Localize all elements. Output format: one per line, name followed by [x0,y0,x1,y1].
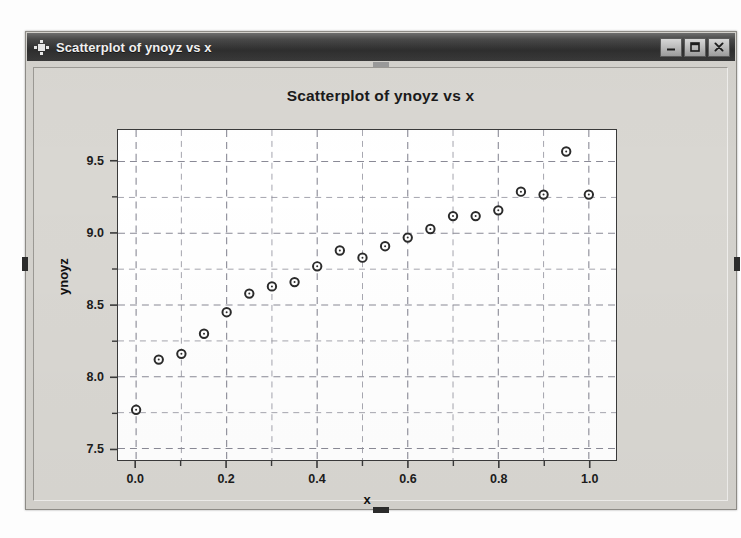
resize-handle-right[interactable] [734,257,740,271]
data-point[interactable] [562,147,570,155]
y-tick-label: 8.5 [87,298,104,312]
data-point[interactable] [426,225,434,233]
data-point[interactable] [313,262,321,270]
x-tick-label: 0.0 [126,472,143,486]
close-button[interactable] [708,38,730,57]
chart-title: Scatterplot of ynoyz vs x [34,87,727,105]
y-tick-label: 9.5 [87,154,104,168]
x-tick-label: 0.8 [490,472,507,486]
data-point[interactable] [381,242,389,250]
graph-window: Scatterplot of ynoyz vs x [25,31,737,510]
data-point[interactable] [336,246,344,254]
y-axis-title: ynoyz [56,258,71,295]
minitab-grid-icon [34,40,49,55]
data-point[interactable] [290,278,298,286]
data-point[interactable] [200,330,208,338]
data-point[interactable] [177,350,185,358]
x-tick-label: 0.2 [217,472,234,486]
data-point[interactable] [268,282,276,290]
y-tick-label: 9.0 [87,226,104,240]
x-tick-label: 0.6 [399,472,416,486]
minimize-button[interactable] [660,38,682,57]
maximize-button[interactable] [684,38,706,57]
y-tick-label: 8.0 [87,370,104,384]
data-point[interactable] [539,190,547,198]
data-point[interactable] [222,308,230,316]
x-axis-title: x [117,492,617,507]
window-buttons [660,38,730,57]
data-point[interactable] [358,254,366,262]
data-point[interactable] [494,206,502,214]
resize-handle-bottom[interactable] [373,507,389,513]
x-tick-label: 0.4 [308,472,325,486]
data-point[interactable] [155,355,163,363]
data-point[interactable] [471,212,479,220]
graph-canvas[interactable]: Scatterplot of ynoyz vs x ynoyz x 7.58.0… [33,67,728,501]
window-title-bar[interactable]: Scatterplot of ynoyz vs x [27,33,735,61]
data-point[interactable] [449,212,457,220]
data-points-layer[interactable] [118,130,616,460]
y-tick-label: 7.5 [87,442,104,456]
resize-handle-left[interactable] [22,257,28,271]
data-point[interactable] [517,188,525,196]
x-tick-label: 1.0 [581,472,598,486]
data-point[interactable] [404,233,412,241]
data-point[interactable] [245,289,253,297]
window-title-text: Scatterplot of ynoyz vs x [56,40,660,55]
plot-area[interactable] [117,129,617,461]
data-point[interactable] [585,190,593,198]
data-point[interactable] [132,406,140,414]
